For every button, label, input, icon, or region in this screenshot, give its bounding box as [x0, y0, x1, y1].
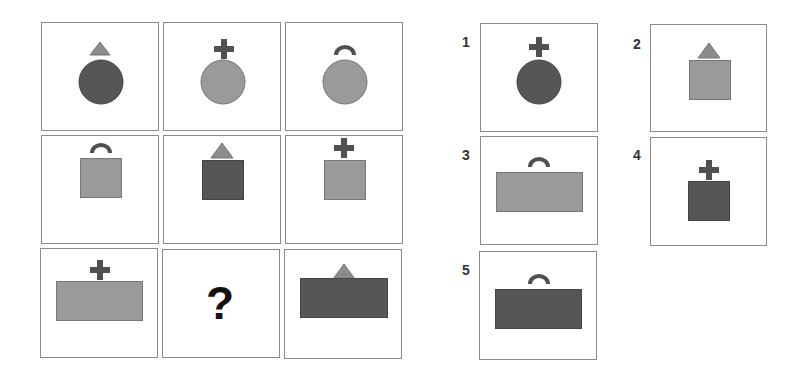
option-2[interactable]: [650, 24, 767, 132]
option-label-3: 3: [462, 147, 470, 163]
option-4[interactable]: [650, 137, 767, 246]
option-label-4: 4: [633, 147, 641, 163]
square-light-shape: [80, 158, 122, 198]
cross-icon: [214, 39, 234, 59]
triangle-icon: [210, 143, 234, 159]
square-light-shape: [689, 60, 731, 100]
matrix-cell-r2c3: [285, 135, 403, 244]
option-label-2: 2: [633, 36, 641, 52]
question-mark: ?: [206, 280, 234, 326]
arc-icon: [527, 272, 551, 286]
cross-icon: [334, 138, 354, 158]
cross-icon: [699, 160, 719, 180]
matrix-cell-r1c1: [41, 22, 159, 131]
matrix-cell-r2c2: [163, 135, 281, 244]
rectangle-dark-shape: [495, 289, 582, 329]
matrix-cell-r3c2-missing: ?: [162, 249, 280, 358]
matrix-cell-r1c3: [285, 22, 403, 131]
square-light-shape: [324, 160, 366, 200]
option-5[interactable]: [479, 251, 597, 360]
matrix-cell-r2c1: [41, 135, 159, 244]
arc-icon: [527, 155, 551, 169]
matrix-cell-r3c3: [284, 249, 402, 359]
triangle-icon: [697, 43, 721, 59]
cross-icon: [90, 260, 110, 280]
option-label-5: 5: [462, 262, 470, 278]
square-dark-shape: [202, 160, 244, 200]
triangle-icon: [89, 42, 111, 57]
matrix-cell-r3c1: [40, 248, 158, 358]
circle-dark-shape: [78, 59, 124, 105]
circle-light-shape: [200, 59, 246, 105]
cross-icon: [529, 37, 549, 57]
circle-light-shape: [322, 59, 368, 105]
square-dark-shape: [688, 181, 730, 221]
matrix-cell-r1c2: [163, 22, 281, 131]
circle-dark-shape: [516, 59, 562, 105]
rectangle-dark-shape: [300, 278, 388, 318]
rectangle-light-shape: [496, 172, 583, 212]
arc-icon: [89, 141, 113, 155]
option-3[interactable]: [480, 136, 598, 245]
arc-icon: [333, 43, 357, 57]
option-label-1: 1: [462, 34, 470, 50]
rectangle-light-shape: [56, 281, 143, 321]
option-1[interactable]: [480, 23, 598, 132]
